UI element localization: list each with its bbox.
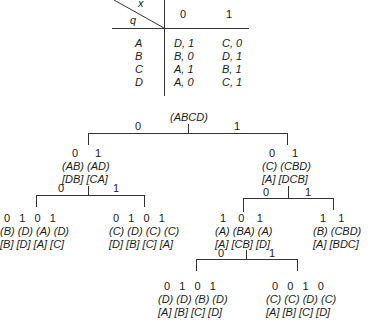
row-cell-0: D, 1: [174, 37, 194, 49]
tree-edge: [36, 195, 145, 196]
branch-label: 1: [305, 186, 311, 198]
node-successors: [A] [BDC]: [313, 238, 359, 250]
node-outputs: 1 1: [320, 212, 344, 224]
leaf-groups: (B) (D) (A) (D): [0, 225, 69, 237]
output-label: 1: [292, 147, 298, 159]
state-label: q: [130, 14, 136, 26]
tree-edge: [36, 195, 37, 207]
branch-label: 1: [269, 247, 275, 259]
output-label: 1: [95, 147, 101, 159]
row-cell-0: B, 0: [174, 50, 194, 62]
branch-label: 0: [218, 247, 224, 259]
row-cell-0: A, 1: [174, 63, 194, 75]
column-header-0: 0: [180, 8, 186, 20]
row-state: B: [135, 50, 142, 62]
branch-label: 0: [135, 120, 141, 132]
node-groups: (C) (CBD): [262, 160, 311, 172]
leaf-successors: [B] [D] [A] [C]: [0, 238, 64, 250]
column-header-1: 1: [226, 8, 232, 20]
tree-edge: [288, 186, 289, 198]
table-vline: [164, 0, 165, 96]
root-node: (ABCD): [170, 111, 208, 123]
tree-edge: [297, 259, 298, 271]
row-cell-1: D, 1: [222, 50, 242, 62]
leaf-outputs: 0 1 0 1: [113, 212, 165, 224]
row-cell-1: B, 1: [222, 63, 242, 75]
leaf-groups: (C) (C) (D) (C): [266, 293, 336, 305]
row-state: D: [135, 76, 143, 88]
output-label: 0: [269, 147, 275, 159]
leaf-outputs: 0 0 1 0: [272, 280, 324, 292]
leaf-outputs: 0 1 0 1: [164, 280, 216, 292]
leaf-groups: (D) (D) (B) (D): [158, 293, 228, 305]
leaf-successors: [D] [B] [C] [A]: [109, 238, 173, 250]
node-groups: (A) (BA) (A): [215, 225, 272, 237]
node-successors: [A] [DCB]: [262, 173, 308, 185]
tree-edge: [243, 198, 244, 212]
tree-edge: [88, 186, 89, 195]
row-cell-1: C, 1: [222, 76, 242, 88]
leaf-groups: (C) (D) (C) (C): [109, 225, 179, 237]
tree-edge: [333, 198, 334, 210]
leaf-successors: [A] [B] [C] [D]: [158, 306, 222, 318]
table-hline: [112, 28, 149, 29]
branch-label: 1: [113, 182, 119, 194]
row-state: A: [135, 37, 142, 49]
branch-label: 1: [234, 120, 240, 132]
node-groups: (AB) (AD): [62, 160, 110, 172]
tree-edge: [88, 133, 288, 134]
tree-edge: [196, 259, 197, 271]
leaf-outputs: 0 1 0 1: [4, 212, 56, 224]
tree-edge: [144, 195, 145, 207]
output-label: 0: [72, 147, 78, 159]
tree-edge: [246, 250, 247, 259]
tree-edge: [88, 133, 89, 145]
node-groups: (B) (CBD): [313, 225, 361, 237]
input-label: x: [138, 0, 144, 9]
row-cell-1: C, 0: [222, 37, 242, 49]
tree-edge: [196, 259, 298, 260]
leaf-successors: [A] [B] [C] [D]: [266, 306, 330, 318]
row-state: C: [135, 63, 143, 75]
branch-label: 0: [58, 182, 64, 194]
tree-edge: [287, 133, 288, 145]
row-cell-0: A, 0: [174, 76, 194, 88]
tree-edge: [243, 198, 334, 199]
branch-label: 0: [263, 186, 269, 198]
node-successors: [DB] [CA]: [62, 173, 108, 185]
tree-edge: [188, 124, 189, 133]
node-outputs: 1 0 1: [220, 212, 263, 224]
